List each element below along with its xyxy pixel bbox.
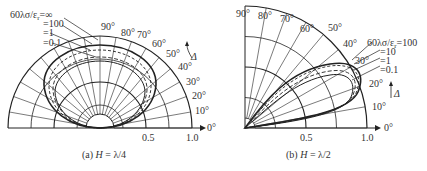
angle-label-b-70: 70°: [280, 13, 294, 24]
caption-a: (a) H = λ/4: [82, 149, 126, 161]
angle-label-50: 50°: [166, 48, 180, 59]
angle-label-0: 0°: [207, 122, 216, 133]
angle-label-70: 70°: [137, 29, 151, 40]
polar-plot-b: [245, 6, 393, 131]
angle-label-80: 80°: [121, 27, 135, 38]
angle-label-90: 90°: [101, 21, 115, 32]
angle-label-b-40: 40°: [343, 38, 357, 49]
radial-label-b-1.0: 1.0: [361, 132, 374, 143]
angle-label-b-60: 60°: [300, 23, 314, 34]
polar-plot-a: [8, 18, 206, 131]
angle-label-b-0: 0°: [384, 122, 393, 133]
angle-label-40: 40°: [178, 61, 192, 72]
radial-label-1.0: 1.0: [186, 132, 199, 143]
angle-label-b-80: 80°: [258, 10, 272, 21]
angle-label-60: 60°: [152, 38, 166, 49]
param-value-b-0.1: =0.1: [380, 64, 398, 75]
angle-label-b-10: 10°: [372, 101, 386, 112]
angle-label-b-20: 20°: [369, 78, 383, 89]
labels-a: 60λσ/εr=∞ =100 =1 =0.1 90° 80° 70° 60° 5…: [10, 9, 216, 161]
angle-label-b-50: 50°: [328, 22, 342, 33]
radiation-pattern-figure: 60λσ/εr=∞ =100 =1 =0.1 90° 80° 70° 60° 5…: [0, 0, 427, 171]
angle-label-b-90: 90°: [236, 8, 250, 19]
delta-label-b: Δ: [393, 88, 400, 99]
param-value-a-0.1: =0.1: [43, 37, 61, 48]
radial-label-0.5: 0.5: [142, 132, 155, 143]
angle-label-b-30: 30°: [355, 55, 369, 66]
angle-label-30: 30°: [186, 76, 200, 87]
angle-label-20: 20°: [192, 90, 206, 101]
caption-b: (b) H = λ/2: [286, 149, 331, 161]
angle-label-10: 10°: [195, 105, 209, 116]
delta-label-a: Δ: [190, 51, 197, 62]
radial-label-b-0.5: 0.5: [300, 132, 313, 143]
